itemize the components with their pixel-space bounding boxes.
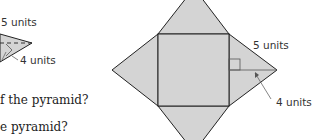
left-base-label: 4 units xyxy=(20,55,56,66)
question-2-text: e pyramid? xyxy=(0,121,68,133)
net-slant-height-label: 5 units xyxy=(253,40,289,51)
net-bottom-face xyxy=(158,106,229,140)
net-base-square xyxy=(158,34,229,106)
pyramid-net xyxy=(112,0,277,140)
pyramid-figure xyxy=(0,0,321,140)
question-1-text: f the pyramid? xyxy=(0,94,88,106)
net-top-face xyxy=(158,0,229,34)
left-slant-height-label: 5 units xyxy=(1,17,37,28)
net-base-label: 4 units xyxy=(276,97,312,108)
net-left-face xyxy=(112,34,158,106)
